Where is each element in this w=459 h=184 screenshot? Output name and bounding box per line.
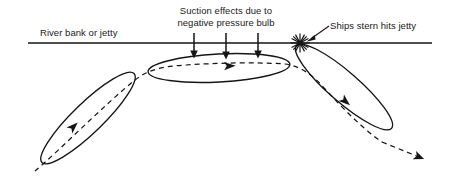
stern-hit-label: Ships stern hits jetty (330, 20, 416, 32)
heading-arrow-ship-3 (338, 95, 352, 109)
river-bank-label: River bank or jetty (40, 27, 118, 39)
suction-effects-label-line2: negative pressure bulb (177, 17, 274, 28)
ship-hull-alongside (147, 50, 290, 85)
suction-effects-label-line1: Suction effects due to (180, 5, 272, 16)
suction-arrow-1 (190, 33, 198, 59)
ship-track-exit (382, 142, 419, 157)
ship-hull-approach (32, 63, 145, 173)
impact-starburst-icon (291, 34, 310, 53)
suction-effects-label: Suction effects due to negative pressure… (162, 5, 290, 28)
ship-jetty-diagram: River bank or jetty Suction effects due … (0, 0, 459, 184)
stern-hit-leader (307, 26, 330, 42)
suction-arrow-2 (222, 33, 230, 60)
ship-track-path (35, 63, 382, 171)
